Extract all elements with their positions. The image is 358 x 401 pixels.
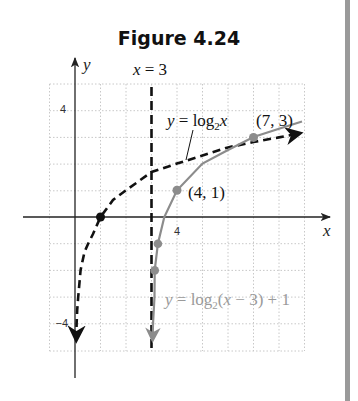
figure-title: Figure 4.24 (118, 27, 240, 49)
asymptote-label: x = 3 (132, 60, 167, 79)
x-axis-label: x (322, 221, 331, 240)
point-3.25-neg1 (154, 239, 163, 248)
label-point-7-3: (7, 3) (256, 111, 293, 130)
point-7-3 (249, 133, 258, 142)
leader-line (186, 130, 193, 160)
label-point-4-1: (4, 1) (188, 183, 225, 202)
label-base-curve: y = log2x (165, 111, 228, 132)
page-edge-bar (345, 0, 350, 401)
y-axis-label: y (81, 55, 91, 74)
figure-4-24: Figure 4.24 y x 4 4 −4 x = 3 (0, 0, 358, 401)
tick-y-4: 4 (60, 103, 66, 115)
point-1-0 (96, 213, 105, 222)
tick-y-neg4: −4 (55, 317, 68, 329)
label-shifted-curve: y = log2(x − 3) + 1 (163, 290, 290, 311)
point-3.125-neg2 (150, 266, 159, 275)
tick-x-4: 4 (174, 225, 180, 237)
point-4-1 (173, 186, 182, 195)
